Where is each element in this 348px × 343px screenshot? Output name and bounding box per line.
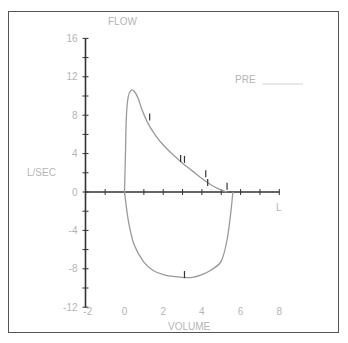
x-tick-label: 4 xyxy=(199,306,205,317)
curve-markers xyxy=(150,114,227,278)
flow-volume-loop xyxy=(125,90,233,278)
y-tick-label: -12 xyxy=(63,302,78,313)
expiratory-curve xyxy=(125,90,228,192)
x-axis-units: L xyxy=(276,202,282,213)
flow-volume-chart: 1612840-4-8-12-202468 FLOW L/SEC VOLUME … xyxy=(0,0,348,343)
y-tick-label: 16 xyxy=(66,33,78,44)
x-tick-label: 2 xyxy=(160,306,166,317)
x-tick-label: 6 xyxy=(238,306,244,317)
y-tick-label: -4 xyxy=(69,225,78,236)
y-tick-label: 4 xyxy=(72,148,78,159)
y-tick-label: 8 xyxy=(72,110,78,121)
y-axis-title: FLOW xyxy=(108,16,137,27)
pre-annotation-label: PRE xyxy=(235,74,256,85)
y-tick-label: 12 xyxy=(66,71,78,82)
x-tick-label: 0 xyxy=(122,306,128,317)
x-axis-title: VOLUME xyxy=(168,321,211,332)
x-tick-label: 8 xyxy=(277,306,283,317)
x-tick-label: -2 xyxy=(83,306,92,317)
y-tick-label: 0 xyxy=(72,187,78,198)
inspiratory-curve xyxy=(125,192,233,278)
y-axis-units: L/SEC xyxy=(27,167,56,178)
y-tick-label: -8 xyxy=(69,263,78,274)
